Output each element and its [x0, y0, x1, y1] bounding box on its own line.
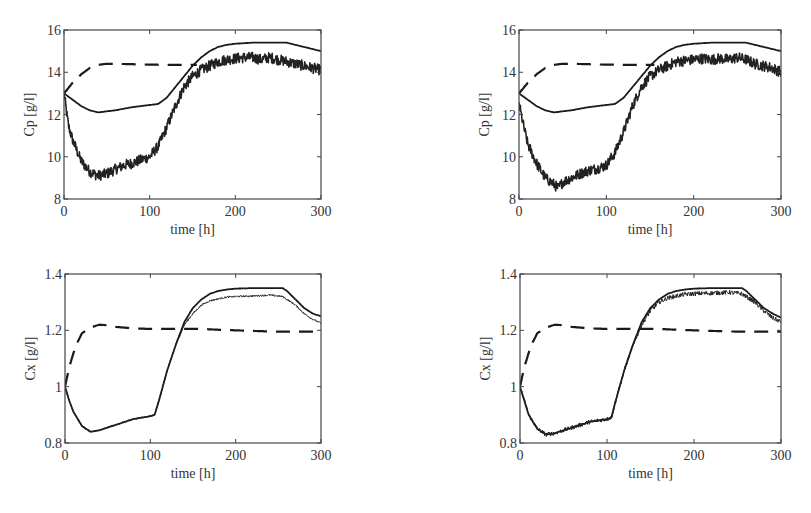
x-tick-label: 200	[225, 448, 246, 463]
x-tick-label: 100	[140, 448, 161, 463]
y-tick-label: 12	[47, 108, 61, 123]
x-tick-label: 0	[516, 204, 523, 219]
chart-cp_right: 0100200300810121416time [h]Cp [g/l]	[477, 23, 792, 237]
x-tick-label: 100	[139, 204, 160, 219]
series-line-noisy	[65, 294, 321, 432]
y-tick-label: 1.2	[500, 323, 518, 338]
x-axis-label: time [h]	[628, 222, 673, 237]
axes-frame	[520, 274, 781, 443]
y-tick-label: 10	[47, 150, 61, 165]
y-tick-label: 12	[502, 108, 516, 123]
x-tick-label: 0	[62, 448, 69, 463]
series-line-noisy	[64, 53, 321, 181]
x-tick-label: 300	[311, 448, 332, 463]
y-tick-label: 16	[47, 23, 61, 38]
series-line-noisy	[519, 53, 781, 191]
y-tick-label: 1.2	[45, 323, 63, 338]
x-tick-label: 0	[61, 204, 68, 219]
y-axis-label: Cp [g/l]	[477, 93, 492, 137]
y-axis-label: Cp [g/l]	[22, 93, 37, 137]
x-axis-label: time [h]	[170, 222, 215, 237]
x-tick-label: 0	[517, 448, 524, 463]
y-axis-label: Cx [g/l]	[23, 337, 38, 381]
series-line-noisy	[520, 290, 781, 436]
x-tick-label: 200	[683, 204, 704, 219]
chart-cp_left: 0100200300810121416time [h]Cp [g/l]	[22, 23, 332, 237]
x-tick-label: 100	[596, 204, 617, 219]
x-tick-label: 200	[684, 448, 705, 463]
y-tick-label: 1	[510, 380, 517, 395]
y-tick-label: 14	[502, 65, 516, 80]
y-tick-label: 10	[502, 150, 516, 165]
y-tick-label: 1.4	[500, 267, 518, 282]
axes-frame	[65, 274, 321, 443]
series-line-dashed	[519, 64, 654, 94]
y-tick-label: 8	[54, 192, 61, 207]
series-line-dashed	[520, 325, 781, 387]
series-line-dashed	[64, 64, 197, 94]
series-line-dashed	[65, 325, 321, 387]
x-axis-label: time [h]	[171, 466, 216, 481]
x-axis-label: time [h]	[628, 466, 673, 481]
x-tick-label: 300	[771, 204, 792, 219]
y-tick-label: 8	[509, 192, 516, 207]
x-tick-label: 300	[311, 204, 332, 219]
series-group	[520, 288, 781, 436]
series-group	[64, 43, 321, 181]
x-tick-label: 300	[771, 448, 792, 463]
series-group	[65, 288, 321, 432]
series-group	[519, 43, 781, 191]
y-axis-label: Cx [g/l]	[478, 337, 493, 381]
y-tick-label: 1	[55, 380, 62, 395]
y-tick-label: 14	[47, 65, 61, 80]
x-tick-label: 200	[225, 204, 246, 219]
chart-cx_right: 01002003000.811.21.4time [h]Cx [g/l]	[478, 267, 792, 481]
x-tick-label: 100	[597, 448, 618, 463]
y-tick-label: 16	[502, 23, 516, 38]
y-tick-label: 0.8	[500, 436, 518, 451]
chart-cx_left: 01002003000.811.21.4time [h]Cx [g/l]	[23, 267, 332, 481]
y-tick-label: 1.4	[45, 267, 63, 282]
figure-canvas: 0100200300810121416time [h]Cp [g/l]01002…	[0, 0, 811, 513]
y-tick-label: 0.8	[45, 436, 63, 451]
series-line-solid	[65, 288, 321, 432]
